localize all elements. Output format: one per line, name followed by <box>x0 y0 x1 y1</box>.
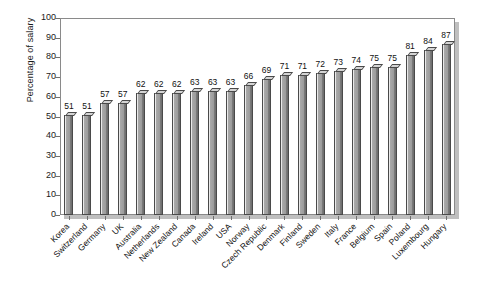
bar <box>334 71 343 215</box>
bar-top-face <box>155 90 167 94</box>
bar-body <box>352 69 361 215</box>
bar-body <box>64 115 73 215</box>
y-tick-mark <box>55 215 60 216</box>
bar-body <box>100 103 109 215</box>
bar <box>406 55 415 215</box>
bar-body <box>280 75 289 215</box>
bar-top-face <box>335 68 347 72</box>
bar <box>118 103 127 215</box>
bar-body <box>406 55 415 215</box>
bar-top-face <box>407 52 419 56</box>
bar-top-face <box>101 100 113 104</box>
y-tick-label: 80 <box>16 52 56 61</box>
bar-top-face <box>281 72 293 76</box>
bar-value-label: 84 <box>423 37 432 46</box>
bar-body <box>370 67 379 215</box>
x-tick-mark <box>446 216 447 220</box>
bar-body <box>424 50 433 215</box>
bar-top-face <box>353 66 365 70</box>
x-tick-mark <box>231 216 232 220</box>
bar-body <box>136 93 145 215</box>
x-tick-mark <box>87 216 88 220</box>
y-tick-label: 50 <box>16 112 56 121</box>
bar-value-label: 51 <box>64 102 73 111</box>
bar-top-face <box>371 64 383 68</box>
x-tick-mark <box>195 216 196 220</box>
x-tick-mark <box>141 216 142 220</box>
y-tick-label: 10 <box>16 190 56 199</box>
x-tick-mark <box>266 216 267 220</box>
x-tick-mark <box>320 216 321 220</box>
bar-body <box>226 91 235 215</box>
y-tick-label: 0 <box>16 210 56 219</box>
bar <box>280 75 289 215</box>
bar-value-label: 57 <box>118 90 127 99</box>
x-tick-mark <box>356 216 357 220</box>
x-tick-mark <box>284 216 285 220</box>
bar-body <box>334 71 343 215</box>
bar-body <box>244 85 253 215</box>
bar <box>298 75 307 215</box>
bar-body <box>262 79 271 215</box>
x-tick-mark <box>392 216 393 220</box>
x-tick-mark <box>159 216 160 220</box>
bar-value-label: 51 <box>82 102 91 111</box>
bar-chart: Percentage of salary 1009080706050403020… <box>0 0 481 298</box>
bar <box>82 115 91 215</box>
bar <box>190 91 199 215</box>
bar-top-face <box>299 72 311 76</box>
bar <box>424 50 433 215</box>
y-tick-label: 30 <box>16 151 56 160</box>
bar-top-face <box>119 100 131 104</box>
bar-value-label: 71 <box>280 62 289 71</box>
bar-body <box>154 93 163 215</box>
x-tick-mark <box>105 216 106 220</box>
bar-top-face <box>173 90 185 94</box>
bar-value-label: 62 <box>172 80 181 89</box>
bar-top-face <box>317 70 329 74</box>
bar-value-label: 71 <box>298 62 307 71</box>
bar-body <box>190 91 199 215</box>
bar <box>64 115 73 215</box>
y-tick-label: 40 <box>16 131 56 140</box>
bar <box>388 67 397 215</box>
bar-value-label: 72 <box>316 60 325 69</box>
bar <box>136 93 145 215</box>
bar-top-face <box>245 82 257 86</box>
bar-top-face <box>209 88 221 92</box>
y-tick-label: 90 <box>16 33 56 42</box>
bar <box>442 44 451 215</box>
bar-body <box>298 75 307 215</box>
bar-value-label: 74 <box>352 56 361 65</box>
bar-value-label: 75 <box>387 54 396 63</box>
bar-body <box>316 73 325 215</box>
y-tick-label: 20 <box>16 171 56 180</box>
bar-value-label: 66 <box>244 72 253 81</box>
x-tick-mark <box>410 216 411 220</box>
x-tick-mark <box>338 216 339 220</box>
bar <box>370 67 379 215</box>
bar-top-face <box>443 41 455 45</box>
bar-body <box>82 115 91 215</box>
y-tick-label: 70 <box>16 72 56 81</box>
bar-value-label: 62 <box>154 80 163 89</box>
bar-body <box>442 44 451 215</box>
bar <box>316 73 325 215</box>
bar-value-label: 63 <box>208 78 217 87</box>
bar <box>172 93 181 215</box>
bar-top-face <box>263 76 275 80</box>
y-tick-label: 60 <box>16 92 56 101</box>
bar <box>226 91 235 215</box>
x-tick-mark <box>123 216 124 220</box>
x-tick-mark <box>249 216 250 220</box>
bar-value-label: 75 <box>369 54 378 63</box>
bar-top-face <box>425 47 437 51</box>
bars-layer <box>60 18 455 215</box>
bar <box>100 103 109 215</box>
bar-body <box>118 103 127 215</box>
x-tick-mark <box>302 216 303 220</box>
bar <box>352 69 361 215</box>
bar-value-label: 62 <box>136 80 145 89</box>
bar-top-face <box>389 64 401 68</box>
bar-body <box>388 67 397 215</box>
